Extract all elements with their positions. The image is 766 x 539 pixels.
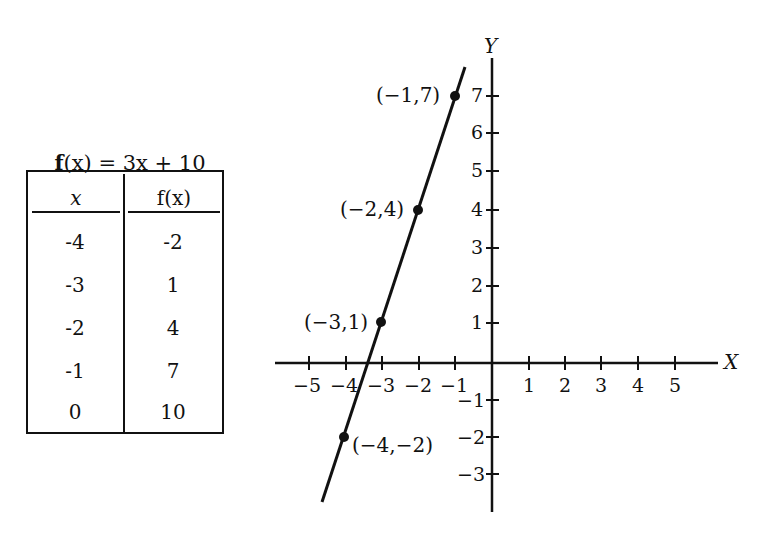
- x-tick-label: 3: [595, 374, 607, 396]
- data-point: [413, 205, 423, 215]
- y-tick-label: 3: [471, 236, 483, 258]
- y-tick-label: 5: [471, 159, 483, 181]
- coordinate-plane: [0, 0, 766, 539]
- y-tick-label: 6: [471, 121, 483, 143]
- x-tick-label: −4: [330, 374, 358, 396]
- data-point: [339, 432, 349, 442]
- y-tick-label: −1: [457, 389, 485, 411]
- x-tick-label: 1: [523, 374, 535, 396]
- y-tick-label: 2: [471, 274, 483, 296]
- data-point: [376, 317, 386, 327]
- point-label: (−1,7): [376, 83, 440, 107]
- y-tick-label: −2: [457, 426, 485, 448]
- point-label: (−2,4): [340, 197, 404, 221]
- x-tick-label: 2: [559, 374, 571, 396]
- y-tick-label: −3: [457, 463, 485, 485]
- y-tick-label: 7: [471, 84, 483, 106]
- y-tick-label: 1: [471, 311, 483, 333]
- data-point: [450, 91, 460, 101]
- x-tick-label: −3: [367, 374, 395, 396]
- point-label: (−3,1): [304, 310, 368, 334]
- y-axis-label: Y: [484, 34, 497, 58]
- y-tick-label: 4: [471, 198, 483, 220]
- x-tick-label: −2: [404, 374, 432, 396]
- x-tick-label: 4: [632, 374, 644, 396]
- x-tick-label: −5: [293, 374, 321, 396]
- point-label: (−4,−2): [352, 433, 433, 457]
- x-tick-label: 5: [669, 374, 681, 396]
- x-axis-label: X: [724, 350, 738, 374]
